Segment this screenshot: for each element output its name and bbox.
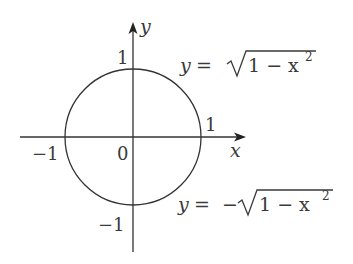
lower-eq-sign: − [222,193,238,215]
y-axis-label: y [139,15,151,37]
lower-eq-exponent: 2 [322,189,330,203]
upper-eq-lhs: y [179,54,191,76]
lower-eq-lhs: y [177,193,189,215]
unit-circle-diagram: y x 0 1 −1 1 −1 y = 1 − x 2 y = − 1 − x … [0,0,353,264]
lower-eq-equals: = [194,193,210,215]
x-axis-label: x [230,139,241,161]
upper-eq-radicand: 1 − x [248,54,299,76]
upper-eq-equals: = [196,54,212,76]
tick-x-neg: −1 [32,143,59,164]
origin-label: 0 [117,143,128,164]
lower-eq-radicand: 1 − x [259,193,310,215]
tick-y-pos: 1 [117,47,128,68]
upper-curve-equation: y = 1 − x 2 [179,50,316,76]
lower-curve-equation: y = − 1 − x 2 [177,189,333,215]
tick-x-pos: 1 [205,114,216,135]
tick-y-neg: −1 [98,214,125,235]
upper-eq-exponent: 2 [305,50,313,64]
